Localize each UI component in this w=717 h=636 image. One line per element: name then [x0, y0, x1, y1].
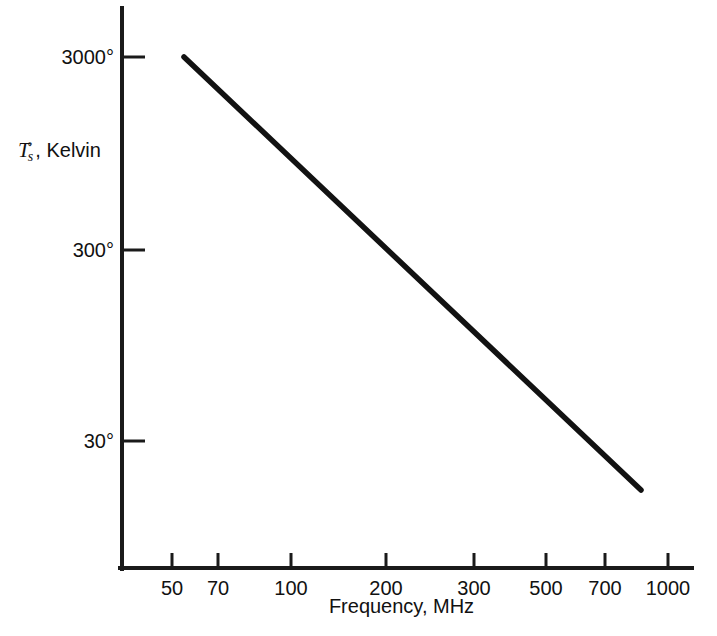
chart-figure: 3000° 300° 30° 50 70 100 200 300 500 700…	[0, 0, 717, 636]
y-axis-unit-text: , Kelvin	[35, 139, 101, 161]
y-tick-label-300: 300°	[22, 240, 114, 260]
y-tick-marks	[122, 57, 145, 441]
y-tick-label-3000: 3000°	[22, 47, 114, 67]
chart-canvas	[0, 0, 717, 636]
x-tick-label-100: 100	[274, 578, 307, 598]
data-series-line	[184, 57, 641, 490]
x-axis-title-text: Frequency, MHz	[329, 595, 474, 617]
y-axis-degree-superscript: °	[27, 139, 32, 154]
x-tick-label-500: 500	[529, 578, 562, 598]
y-axis-title: Ts°, Kelvin	[18, 140, 101, 164]
x-tick-label-700: 700	[588, 578, 621, 598]
x-tick-label-1000: 1000	[646, 578, 691, 598]
y-tick-label-30: 30°	[22, 431, 114, 451]
x-axis-title: Frequency, MHz	[0, 596, 717, 616]
x-tick-marks	[172, 553, 668, 568]
x-tick-label-50: 50	[161, 578, 183, 598]
x-tick-label-70: 70	[207, 578, 229, 598]
